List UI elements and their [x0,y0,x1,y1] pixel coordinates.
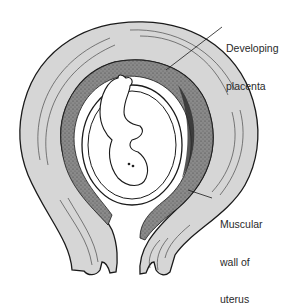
amniotic-sac [82,85,182,205]
label-line: Developing [226,42,279,55]
label-line: Muscular [220,218,263,231]
label-line: wall of [220,256,263,269]
label-muscular-wall: Muscular wall of uterus [220,193,263,307]
label-developing-placenta: Developing placenta [226,17,279,105]
label-line: uterus [220,293,263,306]
label-line: placenta [226,80,279,93]
